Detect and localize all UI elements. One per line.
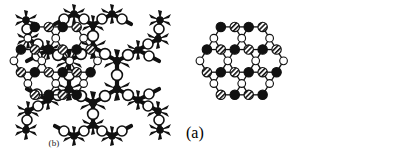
lattice-node-filled xyxy=(272,67,281,76)
lattice-node-hatched xyxy=(30,45,39,54)
lattice-a-nodes xyxy=(196,22,287,99)
lattice-panel-b: (b) xyxy=(0,0,108,153)
lattice-node-filled xyxy=(216,67,225,76)
lattice-node-filled xyxy=(30,22,39,31)
lattice-node-hatched xyxy=(202,67,211,76)
lattice-node-hollow xyxy=(196,57,204,65)
lattice-node-filled xyxy=(16,45,25,54)
lattice-node-filled xyxy=(72,45,81,54)
lattice-b-nodes xyxy=(10,22,101,99)
lattice-node-hollow xyxy=(10,57,18,65)
lattice-node-hollow xyxy=(24,80,32,88)
lattice-node-hollow xyxy=(52,34,60,42)
lattice-node-hatched xyxy=(58,45,67,54)
lattice-node-filled xyxy=(216,22,225,31)
lattice-node-hollow xyxy=(238,80,246,88)
lattice-node-hatched xyxy=(244,45,253,54)
lattice-node-hatched xyxy=(216,90,225,99)
lattice-node-hatched xyxy=(30,90,39,99)
lattice-node-hollow xyxy=(210,34,218,42)
lattice-node-hatched xyxy=(230,67,239,76)
lattice-node-hollow xyxy=(252,57,260,65)
lattice-node-hollow xyxy=(80,34,88,42)
lattice-node-filled xyxy=(44,90,53,99)
figure-root: (a) (b) xyxy=(0,0,403,153)
lattice-node-hatched xyxy=(230,22,239,31)
lattice-node-filled xyxy=(44,45,53,54)
lattice-node-filled xyxy=(244,22,253,31)
lattice-node-hollow xyxy=(224,57,232,65)
lattice-node-filled xyxy=(258,45,267,54)
lattice-node-hollow xyxy=(210,80,218,88)
lattice-node-hatched xyxy=(44,67,53,76)
panel-b-label: (b) xyxy=(0,138,108,148)
lattice-node-filled xyxy=(258,90,267,99)
lattice-node-hollow xyxy=(266,34,274,42)
lattice-b-svg xyxy=(0,0,108,120)
lattice-node-hollow xyxy=(94,57,102,65)
lattice-node-hatched xyxy=(216,45,225,54)
lattice-node-filled xyxy=(244,67,253,76)
lattice-node-hollow xyxy=(24,34,32,42)
lattice-node-filled xyxy=(86,67,95,76)
lattice-node-hollow xyxy=(266,80,274,88)
lattice-node-hatched xyxy=(86,45,95,54)
lattice-node-hollow xyxy=(238,34,246,42)
lattice-node-hollow xyxy=(280,57,288,65)
lattice-node-hatched xyxy=(258,67,267,76)
lattice-node-filled xyxy=(230,90,239,99)
lattice-node-filled xyxy=(72,90,81,99)
lattice-node-hatched xyxy=(72,22,81,31)
lattice-node-filled xyxy=(58,22,67,31)
lattice-node-filled xyxy=(230,45,239,54)
lattice-node-hollow xyxy=(66,57,74,65)
lattice-node-hatched xyxy=(272,45,281,54)
lattice-node-hatched xyxy=(244,90,253,99)
lattice-node-hollow xyxy=(38,57,46,65)
lattice-node-hatched xyxy=(44,22,53,31)
lattice-node-hollow xyxy=(52,80,60,88)
panel-a-label: (a) xyxy=(186,124,294,142)
lattice-node-hatched xyxy=(58,90,67,99)
lattice-node-filled xyxy=(58,67,67,76)
lattice-node-hatched xyxy=(258,22,267,31)
lattice-node-hollow xyxy=(80,80,88,88)
lattice-node-filled xyxy=(30,67,39,76)
lattice-node-hatched xyxy=(16,67,25,76)
lattice-panel-a: (a) xyxy=(186,0,294,153)
lattice-a-svg xyxy=(186,0,294,120)
lattice-node-hatched xyxy=(72,67,81,76)
lattice-node-filled xyxy=(202,45,211,54)
